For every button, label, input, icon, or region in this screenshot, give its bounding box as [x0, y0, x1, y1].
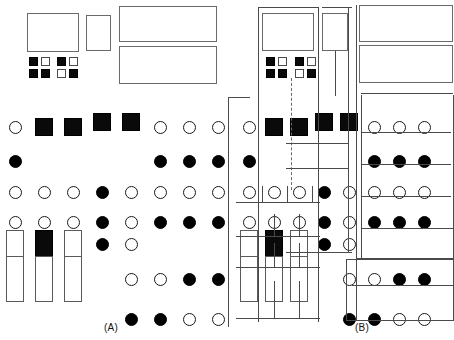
a-row-6-c6-circle	[154, 273, 167, 286]
figure-root: (A) (B)	[0, 0, 454, 340]
b-row-6-c5-circle	[343, 273, 356, 286]
group-tick-r3-c2	[287, 186, 288, 202]
group-tick-r4-b	[299, 214, 300, 236]
group-underline-b-r1	[361, 132, 451, 133]
cluster-1-cell-1	[278, 57, 287, 66]
b-row-5-c1-rect	[240, 230, 258, 257]
box-wide-1	[359, 5, 453, 42]
group-underline-row3	[236, 202, 320, 203]
cluster-2-cell-2	[295, 69, 304, 78]
a-row-1-c6-circle	[154, 121, 167, 134]
group-underline-row4	[236, 236, 320, 237]
cluster-1-cell-3	[41, 69, 50, 78]
group-line-mid-1	[286, 143, 348, 144]
group-tick-r5-b	[299, 243, 300, 267]
a-row-3-c7-circle	[183, 186, 196, 199]
cluster-1-cell-2	[29, 69, 38, 78]
b-row-5-c4-circle	[318, 238, 331, 251]
a-row-6-c8-circle	[212, 273, 225, 286]
a-row-1-c5-square	[122, 113, 140, 131]
a-row-6-c7-circle	[183, 273, 196, 286]
cluster-1-cell-1	[41, 57, 50, 66]
box-large-1	[262, 13, 314, 51]
a-row-4-c7-circle	[183, 216, 196, 229]
a-row-5-c5-circle	[125, 238, 138, 251]
group-underline-row6	[236, 318, 320, 319]
group-spine-left-branch	[228, 97, 229, 327]
a-row-4-c6-circle	[154, 216, 167, 229]
cluster-1-cell-3	[278, 69, 287, 78]
a-row-4-c2-circle	[38, 216, 51, 229]
a-row-2-c1-circle	[9, 155, 22, 168]
a-row-3-c8-circle	[212, 186, 225, 199]
b-row-2-c8-circle	[418, 155, 431, 168]
b-row-7-c8-circle	[418, 313, 431, 326]
b-row-6-c1-tallrect	[240, 256, 258, 302]
b-row-1-c1-circle	[243, 121, 256, 134]
cluster-2-cell-0	[295, 57, 304, 66]
box-large-1	[27, 13, 79, 52]
a-row-7-c8-circle	[212, 313, 225, 326]
b-row-1-c2-square	[265, 118, 283, 136]
cluster-2-cell-3	[69, 69, 78, 78]
a-row-3-c5-circle	[125, 186, 138, 199]
b-row-2-c7-circle	[393, 155, 406, 168]
group-line-mid-2	[286, 168, 348, 169]
box-small-1	[86, 15, 111, 51]
b-row-4-c7-circle	[393, 216, 406, 229]
cluster-1-cell-0	[29, 57, 38, 66]
b-row-2-c6-circle	[368, 155, 381, 168]
cluster-2-cell-1	[69, 57, 78, 66]
group-spine-mid	[348, 120, 349, 250]
a-row-4-c3-circle	[67, 216, 80, 229]
cluster-1-cell-2	[266, 69, 275, 78]
group-line-left-branch	[228, 97, 250, 98]
group-line-mid-3	[286, 252, 352, 253]
box-wide-2	[119, 46, 217, 84]
group-connector-smallbox	[335, 51, 336, 96]
group-frame-lower-left	[346, 259, 347, 321]
b-row-1-c3-square	[290, 118, 308, 136]
group-tick-r3-c3	[312, 186, 313, 202]
b-row-6-c7-circle	[393, 273, 406, 286]
group-line-top-1	[258, 7, 318, 8]
a-row-1-c2-square	[35, 118, 53, 136]
a-row-3-c2-circle	[38, 186, 51, 199]
group-frame-lower-top	[346, 259, 453, 260]
b-row-6-c8-circle	[418, 273, 431, 286]
a-row-6-c5-circle	[125, 273, 138, 286]
group-divider-dashed	[291, 78, 292, 190]
group-line-right-top	[361, 93, 453, 94]
a-row-7-c7-circle	[183, 313, 196, 326]
a-row-5-c1-rect	[6, 230, 24, 257]
b-row-4-c6-circle	[368, 216, 381, 229]
a-row-6-c1-tallrect	[6, 256, 24, 302]
b-row-4-c4-circle	[318, 216, 331, 229]
b-row-7-c7-circle	[393, 313, 406, 326]
group-tick-r3-c1	[262, 186, 263, 202]
box-wide-1	[119, 6, 217, 42]
a-row-4-c4-circle	[96, 216, 109, 229]
group-underline-row5	[236, 267, 320, 268]
b-row-3-c1-circle	[243, 186, 256, 199]
a-row-1-c3-square	[64, 118, 82, 136]
b-row-3-c3-circle	[293, 186, 306, 199]
a-row-1-c7-circle	[183, 121, 196, 134]
a-row-3-c4-circle	[96, 186, 109, 199]
box-small-1	[322, 13, 348, 51]
cluster-2-cell-3	[307, 69, 316, 78]
a-row-7-c6-circle	[154, 313, 167, 326]
a-row-5-c3-rect	[64, 230, 82, 257]
b-row-7-c5-circle	[343, 313, 356, 326]
box-wide-2	[359, 45, 453, 83]
a-row-4-c5-circle	[125, 216, 138, 229]
b-row-6-c6-circle	[368, 273, 381, 286]
b-row-2-c1-circle	[243, 155, 256, 168]
group-spine-inner-1	[318, 7, 319, 322]
group-spine-outer-left	[258, 7, 259, 322]
a-row-1-c1-circle	[9, 121, 22, 134]
group-underline-b-r2	[361, 164, 451, 165]
a-row-1-c8-circle	[212, 121, 225, 134]
a-row-6-c3-tallrect	[64, 256, 82, 302]
b-row-3-c4-circle	[318, 186, 331, 199]
